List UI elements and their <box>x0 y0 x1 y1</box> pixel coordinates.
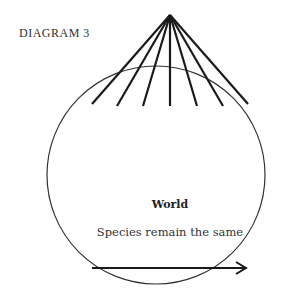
cone-rays <box>92 15 248 106</box>
arrow-label: Species remain the same <box>97 225 243 239</box>
cone-ray <box>143 15 170 106</box>
cone-ray <box>170 15 223 106</box>
cone-ray <box>170 15 248 104</box>
cone-ray <box>170 15 197 106</box>
cone-ray <box>92 15 170 104</box>
world-circle <box>47 66 265 284</box>
cone-ray <box>117 15 170 106</box>
diagram-canvas: World Species remain the same <box>0 0 292 298</box>
world-label: World <box>151 198 189 211</box>
